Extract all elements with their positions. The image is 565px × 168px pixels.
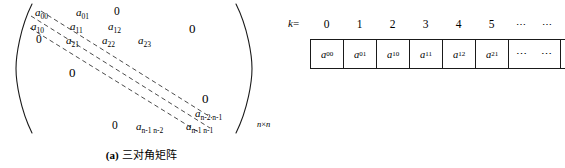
caption-a-tag: (a) bbox=[106, 149, 119, 161]
matrix-entry-a01: a01 bbox=[76, 7, 89, 22]
index-label-4: 4 bbox=[442, 18, 475, 31]
index-label-ellipsis-1: ⋯ bbox=[508, 18, 534, 31]
array-ellipsis-2: ⋯ bbox=[541, 48, 553, 61]
matrix-entry-an1n1: an-1 n-1 bbox=[186, 121, 213, 136]
matrix-upper-triangle-zero: 0 bbox=[189, 22, 196, 35]
matrix-dimension-n2: n bbox=[266, 119, 270, 129]
matrix-lower-triangle-zero: 0 bbox=[69, 66, 76, 79]
array-cell-2-sub: 10 bbox=[392, 50, 399, 58]
index-label-3: 3 bbox=[409, 18, 442, 31]
matrix-entry-a22: a22 bbox=[102, 35, 115, 50]
matrix-entry-a21-sub: 21 bbox=[72, 40, 80, 49]
index-label-2: 2 bbox=[376, 18, 409, 31]
array-ellipsis-1: ⋯ bbox=[516, 48, 528, 61]
matrix-entry-a23-sub: 23 bbox=[144, 40, 152, 49]
matrix-container: a00 a01 0 a10 a11 a12 0 a21 a22 bbox=[14, 2, 269, 135]
array-cell-3: a11 bbox=[410, 40, 443, 68]
matrix-dimension-label: n×n bbox=[257, 119, 270, 129]
index-label-last: 3n–3 bbox=[560, 18, 565, 31]
matrix-entry-a23: a23 bbox=[138, 35, 151, 50]
array-cell-4-sub: 12 bbox=[458, 50, 465, 58]
caption-a-text: 三对角矩阵 bbox=[122, 149, 177, 162]
index-label-1: 1 bbox=[343, 18, 376, 31]
panel-compressed-storage: k= 0 1 2 3 4 5 ⋯ ⋯ 3n–3 a00 a01 a10 a11 bbox=[283, 0, 565, 168]
array-cell-ellipsis: ⋯ ⋯ bbox=[509, 40, 561, 68]
panel-tridiagonal-matrix: a00 a01 0 a10 a11 a12 0 a21 a22 bbox=[0, 0, 283, 168]
index-label-0: 0 bbox=[310, 18, 343, 31]
matrix-entry-a22-sub: 22 bbox=[108, 40, 116, 49]
array-cell-0-sub: 00 bbox=[326, 50, 333, 58]
index-header-row: 0 1 2 3 4 5 ⋯ ⋯ 3n–3 bbox=[310, 15, 565, 31]
figure-tridiagonal-matrix: a00 a01 0 a10 a11 a12 0 a21 a22 bbox=[0, 0, 565, 168]
k-equals-sign: = bbox=[293, 17, 299, 29]
index-label-5: 5 bbox=[475, 18, 508, 31]
matrix-entry-a00-sub: 00 bbox=[41, 12, 49, 21]
matrix-entry-an1n2-sub: n-1 n-2 bbox=[142, 126, 164, 135]
matrix-entry-a21: a21 bbox=[66, 35, 79, 50]
matrix-zero-last-row: 0 bbox=[112, 120, 118, 131]
caption-panel-a: (a) 三对角矩阵 bbox=[0, 146, 283, 162]
array-cell-last: an-1, n-1 bbox=[561, 40, 565, 68]
matrix-entry-a01-sub: 01 bbox=[82, 12, 90, 21]
index-label-ellipsis-2: ⋯ bbox=[534, 18, 560, 31]
array-cell-1-sub: 01 bbox=[359, 50, 366, 58]
array-cell-4: a12 bbox=[443, 40, 476, 68]
matrix-zero-row1: 0 bbox=[114, 6, 120, 17]
array-cell-2: a10 bbox=[377, 40, 410, 68]
matrix-entry-an1n1-sub: n-1 n-1 bbox=[192, 126, 214, 135]
matrix-upper-zero-lower: 0 bbox=[202, 92, 209, 105]
matrix-entry-an1n2: an-1 n-2 bbox=[136, 121, 163, 136]
matrix-entry-a11-sub: 11 bbox=[76, 26, 83, 35]
diagonal-band-lines bbox=[14, 2, 269, 135]
array-cell-5: a21 bbox=[476, 40, 509, 68]
matrix-entry-a12-sub: 12 bbox=[114, 26, 122, 35]
array-cell-1: a01 bbox=[344, 40, 377, 68]
compressed-storage-array: a00 a01 a10 a11 a12 a21 ⋯ ⋯ an-1, n-1 bbox=[310, 39, 565, 69]
k-index-label: k= bbox=[288, 17, 299, 29]
matrix-zero-row3: 0 bbox=[36, 34, 42, 45]
array-cell-3-sub: 11 bbox=[425, 50, 432, 58]
array-cell-0: a00 bbox=[311, 40, 344, 68]
matrix-entry-a12: a12 bbox=[108, 21, 121, 36]
array-cell-5-sub: 21 bbox=[491, 50, 498, 58]
